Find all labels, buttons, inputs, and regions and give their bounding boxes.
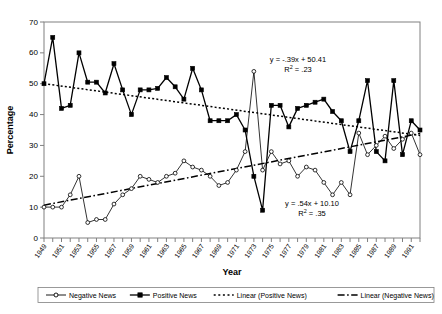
marker-point (156, 86, 160, 90)
marker-point (182, 159, 186, 163)
chart-figure: 010203040506070Percentage194919511953195… (0, 0, 442, 314)
legend-label: Linear (Negative News) (361, 292, 434, 300)
y-tick-label: 0 (34, 234, 39, 243)
marker-point (313, 100, 317, 104)
marker-point (191, 165, 195, 169)
legend-label: Linear (Positive News) (237, 292, 307, 300)
marker-point (409, 131, 413, 135)
x-tick-label: 1985 (348, 242, 363, 259)
y-tick-label: 30 (29, 141, 38, 150)
marker-point (392, 79, 396, 83)
marker-point (226, 181, 230, 185)
x-tick-label: 1973 (243, 242, 258, 259)
x-tick-label: 1981 (313, 242, 328, 259)
marker-point (261, 208, 265, 212)
x-tick-label: 1967 (191, 242, 206, 259)
x-axis-title: Year (222, 267, 242, 277)
marker-point (287, 125, 291, 129)
marker-point (147, 177, 151, 181)
marker-point (86, 221, 90, 225)
y-tick-label: 20 (29, 172, 38, 181)
marker-point (51, 35, 55, 39)
marker-point (278, 103, 282, 107)
marker-point (357, 119, 361, 123)
marker-point (129, 113, 133, 117)
marker-point (112, 202, 116, 206)
marker-point (59, 106, 63, 110)
marker-point (77, 51, 81, 55)
y-tick-label: 10 (29, 203, 38, 212)
x-tick-label: 1965 (173, 242, 188, 259)
marker-point (401, 153, 405, 157)
marker-point (103, 218, 107, 222)
x-tick-label: 1989 (383, 242, 398, 259)
marker-point (243, 150, 247, 154)
marker-point (208, 119, 212, 123)
marker-point (348, 150, 352, 154)
marker-point (42, 82, 46, 86)
x-tick-label: 1959 (121, 242, 136, 259)
marker-point (138, 88, 142, 92)
marker-point (322, 97, 326, 101)
marker-point (191, 66, 195, 70)
marker-point (296, 106, 300, 110)
marker-point (409, 119, 413, 123)
marker-point (357, 131, 361, 135)
marker-point (130, 187, 134, 191)
marker-point (401, 137, 405, 141)
marker-point (226, 119, 230, 123)
marker-point (304, 103, 308, 107)
x-tick-label: 1963 (156, 242, 171, 259)
marker-point (68, 193, 72, 197)
marker-point (164, 76, 168, 80)
annotation-r2: R2 = .23 (284, 64, 311, 74)
marker-point (418, 128, 422, 132)
y-tick-label: 60 (29, 48, 38, 57)
marker-point (234, 168, 238, 172)
marker-point (392, 147, 396, 151)
marker-point (418, 153, 422, 157)
annotation-r2: R2 = .35 (298, 208, 325, 218)
legend-label: Negative News (69, 292, 117, 300)
legend-marker-circle (54, 293, 58, 297)
marker-point (252, 69, 256, 73)
x-axis: 1949195119531955195719591961196319651967… (33, 238, 420, 259)
marker-point (173, 171, 177, 175)
marker-point (383, 159, 387, 163)
marker-point (42, 205, 46, 209)
marker-point (331, 109, 335, 113)
marker-point (348, 193, 352, 197)
marker-point (383, 134, 387, 138)
x-tick-label: 1979 (295, 242, 310, 259)
y-axis-title: Percentage (5, 106, 15, 155)
x-tick-label: 1975 (260, 242, 275, 259)
x-tick-label: 1957 (103, 242, 118, 259)
marker-point (278, 162, 282, 166)
y-tick-label: 40 (29, 110, 38, 119)
marker-point (261, 168, 265, 172)
marker-point (366, 79, 370, 83)
x-tick-label: 1949 (33, 242, 48, 259)
percentage-by-year-line-chart: 010203040506070Percentage194919511953195… (0, 0, 442, 314)
marker-point (103, 91, 107, 95)
legend: Negative NewsPositive NewsLinear (Positi… (38, 288, 434, 303)
marker-point (77, 174, 81, 178)
marker-point (121, 88, 125, 92)
marker-point (208, 174, 212, 178)
marker-point (313, 168, 317, 172)
marker-point (173, 85, 177, 89)
marker-point (331, 193, 335, 197)
marker-point (252, 174, 256, 178)
marker-point (304, 165, 308, 169)
marker-point (95, 218, 99, 222)
marker-point (94, 80, 98, 84)
annotation-equation: y = .54x + 10.10 (285, 199, 339, 208)
marker-point (296, 174, 300, 178)
x-tick-label: 1969 (208, 242, 223, 259)
marker-point (138, 174, 142, 178)
marker-point (60, 205, 64, 209)
x-tick-label: 1991 (400, 242, 415, 259)
marker-point (269, 150, 273, 154)
marker-point (121, 193, 125, 197)
y-tick-label: 70 (29, 18, 38, 27)
